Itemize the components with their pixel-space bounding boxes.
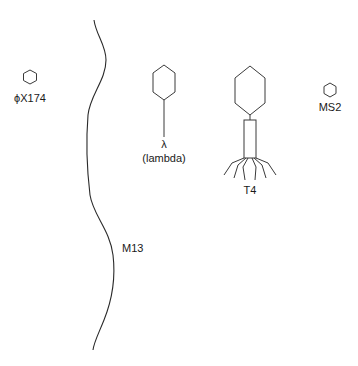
phage-lambda: λ (lambda) xyxy=(142,65,185,164)
phix174-head-icon xyxy=(24,70,37,84)
phage-ms2: MS2 xyxy=(319,83,342,113)
lambda-symbol-label: λ xyxy=(161,138,167,150)
phage-m13: M13 xyxy=(87,20,143,350)
phage-phix174: ϕX174 xyxy=(14,70,46,104)
ms2-head-icon xyxy=(324,83,336,97)
lambda-head-icon xyxy=(153,65,175,100)
t4-tail-sheath-icon xyxy=(244,120,256,158)
t4-label: T4 xyxy=(244,184,257,196)
ms2-label: MS2 xyxy=(319,101,342,113)
phix174-label: ϕX174 xyxy=(14,92,46,104)
m13-label: M13 xyxy=(122,242,143,254)
phage-diagram: ϕX174 M13 λ (lambda) xyxy=(0,0,358,366)
lambda-name-label: (lambda) xyxy=(142,152,185,164)
phage-t4: T4 xyxy=(224,66,276,196)
t4-head-icon xyxy=(235,66,265,115)
t4-tail-fibers-icon xyxy=(224,158,276,180)
m13-filament-icon xyxy=(87,20,114,350)
